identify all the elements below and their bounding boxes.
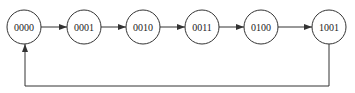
state-label: 0011 xyxy=(192,22,212,33)
state-0010: 0010 xyxy=(126,10,160,44)
state-label: 0010 xyxy=(133,22,153,33)
state-0000: 0000 xyxy=(7,10,41,44)
state-1001: 1001 xyxy=(312,10,346,44)
state-label: 1001 xyxy=(319,22,339,33)
state-0100: 0100 xyxy=(244,10,278,44)
state-label: 0000 xyxy=(14,22,34,33)
state-diagram: 0000 0001 0010 0011 0100 1001 xyxy=(0,0,355,93)
state-label: 0001 xyxy=(74,22,94,33)
arrow-1001-0000 xyxy=(25,44,329,86)
diagram-canvas: 0000 0001 0010 0011 0100 1001 xyxy=(0,0,355,93)
state-label: 0100 xyxy=(251,22,271,33)
state-0001: 0001 xyxy=(67,10,101,44)
state-0011: 0011 xyxy=(185,10,219,44)
